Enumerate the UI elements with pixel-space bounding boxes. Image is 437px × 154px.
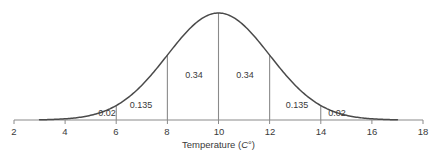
x-axis-title-unit: C xyxy=(241,139,248,150)
x-tick-label-10: 10 xyxy=(207,126,231,137)
area-label-left-tail: 0.02 xyxy=(92,108,122,118)
area-label-right-outer: 0.135 xyxy=(281,100,313,110)
area-label-left-inner: 0.34 xyxy=(180,70,208,80)
x-tick-label-4: 4 xyxy=(53,126,77,137)
area-label-right-tail: 0.02 xyxy=(322,108,352,118)
x-axis-title: Temperature (C°) xyxy=(0,139,437,150)
x-tick-label-12: 12 xyxy=(258,126,282,137)
x-axis-title-text: Temperature ( xyxy=(182,139,241,150)
x-tick-label-18: 18 xyxy=(411,126,435,137)
x-tick-label-6: 6 xyxy=(104,126,128,137)
x-tick-label-14: 14 xyxy=(309,126,333,137)
x-tick-label-8: 8 xyxy=(155,126,179,137)
x-axis-title-tail: °) xyxy=(248,139,255,150)
x-tick-label-2: 2 xyxy=(2,126,26,137)
x-tick-label-16: 16 xyxy=(360,126,384,137)
area-label-right-inner: 0.34 xyxy=(231,70,259,80)
normal-distribution-figure: 2 4 6 8 10 12 14 16 18 0.02 0.135 0.34 0… xyxy=(0,0,437,154)
area-label-left-outer: 0.135 xyxy=(125,100,157,110)
